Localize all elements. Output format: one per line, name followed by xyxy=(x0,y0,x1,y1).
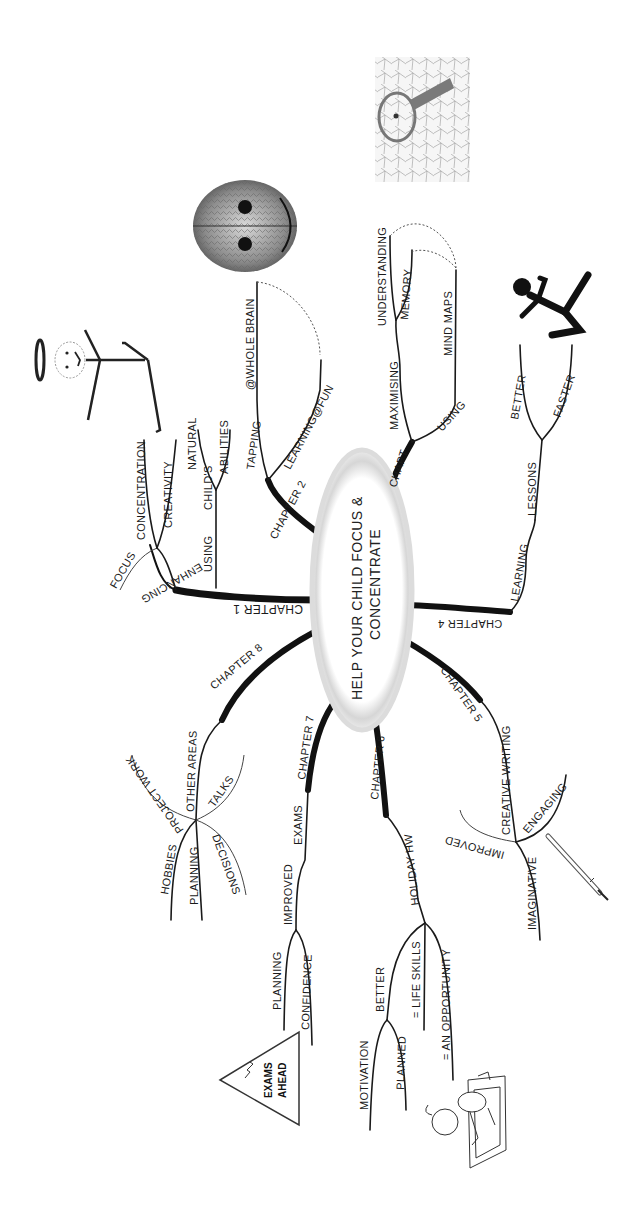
label-lessons: LESSONS xyxy=(526,462,538,516)
exams-ahead-sign-icon: EXAMS AHEAD xyxy=(220,1032,299,1125)
branch-chapter-8 xyxy=(222,630,318,720)
label-mind-maps: MIND MAPS xyxy=(442,291,454,356)
label-improved-7: IMPROVED xyxy=(282,864,294,925)
label-learning-fun: LEARNING@FUN xyxy=(281,383,336,471)
label-abilities: ABILITIES xyxy=(218,420,230,474)
label-using-1: USING xyxy=(202,536,214,572)
branch-chapter-4 xyxy=(406,605,510,612)
brain-icon xyxy=(193,180,297,272)
label-creativity: CREATIVITY xyxy=(162,461,174,528)
label-childs: CHILD'S xyxy=(202,465,214,510)
label-faster: FASTER xyxy=(551,373,578,419)
label-creative-writing: CREATIVE WRITING xyxy=(500,725,512,835)
label-improved-5: IMPROVED xyxy=(443,834,505,861)
label-holiday-hw: HOLIDAY HW xyxy=(402,833,421,906)
label-opportunity: = AN OPPORTUNITY xyxy=(440,948,452,1060)
label-understanding: UNDERSTANDING xyxy=(376,227,388,326)
label-maximising: MAXIMISING xyxy=(388,361,400,430)
label-life-skills: = LIFE SKILLS xyxy=(410,941,422,1018)
label-using-3: USING xyxy=(435,398,468,433)
label-chapter-8: CHAPTER 8 xyxy=(208,641,265,692)
label-imaginative: IMAGINATIVE xyxy=(526,857,538,930)
exams-sign-line-1: EXAMS xyxy=(263,1062,274,1098)
label-better-6: BETTER xyxy=(374,967,386,1012)
center-title-line-1: HELP YOUR CHILD FOCUS & xyxy=(349,496,365,700)
label-learning-4: LEARNING xyxy=(508,543,530,603)
branch-chapter-1 xyxy=(176,590,318,600)
running-figure-icon xyxy=(513,275,588,335)
label-concentration: CONCENTRATION xyxy=(135,441,147,540)
magnifier-neurons-icon xyxy=(375,57,470,182)
mind-map: HELP YOUR CHILD FOCUS & CONCENTRATE CHAP… xyxy=(0,0,637,1216)
label-planning-8: PLANNING xyxy=(188,846,200,905)
label-project-work: PROJECT WORK xyxy=(123,753,186,836)
center-title-line-2: CONCENTRATE xyxy=(367,529,383,640)
label-natural: NATURAL xyxy=(186,417,198,470)
label-memory: MEMORY xyxy=(398,268,414,320)
label-chapter-4: CHAPTER 4 xyxy=(438,618,502,630)
label-chapter-1: CHAPTER 1 xyxy=(233,602,303,616)
label-motivation: MOTIVATION xyxy=(358,1040,370,1110)
label-planned: PLANNED xyxy=(394,1036,408,1090)
label-chapter-3: CHAPT xyxy=(386,448,409,489)
label-hobbies: HOBBIES xyxy=(158,843,179,895)
label-enhancing: ENHANCING xyxy=(139,561,205,606)
angel-stick-figure-icon xyxy=(36,330,160,432)
branch-chapter-7 xyxy=(308,700,336,790)
exams-sign-line-2: AHEAD xyxy=(277,1062,288,1098)
pen-icon xyxy=(548,836,608,900)
label-exams: EXAMS xyxy=(292,805,304,845)
label-planning-7: PLANNING xyxy=(271,951,283,1010)
child-drawing-icon xyxy=(426,1072,506,1168)
label-whole-brain: @WHOLE BRAIN xyxy=(244,298,256,390)
